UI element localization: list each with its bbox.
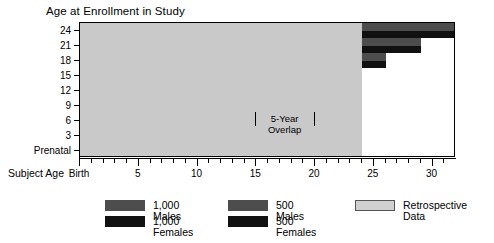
x-axis-minor-tick [161,159,162,163]
x-axis-major-tick [138,159,139,166]
x-axis-major-tick [197,159,198,166]
y-axis-tick-label: 15 [60,69,71,80]
x-axis-minor-tick [302,159,303,163]
chart-legend: 1,000 Males1,000 Females500 Males500 Fem… [0,196,494,243]
y-axis-tick-label: 12 [60,84,71,95]
y-axis-tick-label: Prenatal [34,144,71,155]
x-axis-major-tick [373,159,374,166]
x-axis-minor-tick [232,159,233,163]
x-axis-minor-tick [408,159,409,163]
x-axis-minor-tick [291,159,292,163]
y-axis-tick [74,150,79,151]
x-axis-minor-tick [126,159,127,163]
legend-label-five-hundred-females: 500 Females [276,216,316,238]
y-axis-tick [74,45,79,46]
x-axis-minor-tick [267,159,268,163]
x-axis-minor-tick [326,159,327,163]
x-axis-minor-tick [349,159,350,163]
legend-label-retrospective: Retrospective Data [403,200,467,222]
legend-label-thousand-females: 1,000 Females [153,216,193,238]
cohort-band-female [362,31,455,39]
overlap-annotation-line1: 5-Year [250,113,320,124]
x-axis-minor-tick [338,159,339,163]
y-axis-tick [74,105,79,106]
x-axis-tick-label: Birth [69,168,90,179]
x-axis-tick-label: 20 [308,168,319,179]
x-axis-minor-tick [91,159,92,163]
x-axis-minor-tick [385,159,386,163]
x-axis-minor-tick [185,159,186,163]
x-axis-minor-tick [114,159,115,163]
x-axis-minor-tick [173,159,174,163]
y-axis-tick-label: 21 [60,39,71,50]
y-axis-tick [74,120,79,121]
x-axis-minor-tick [208,159,209,163]
x-axis-minor-tick [103,159,104,163]
x-axis-major-tick [79,159,80,166]
legend-swatch-thousand-females [105,216,145,227]
x-axis-minor-tick [396,159,397,163]
x-axis-major-tick [255,159,256,166]
x-axis-major-tick [432,159,433,166]
plot-area [79,22,455,157]
x-axis-tick-label: 10 [191,168,202,179]
x-axis-tick-label: 25 [367,168,378,179]
x-axis-minor-tick [150,159,151,163]
retrospective-region [80,23,362,157]
y-axis-tick-label: 24 [60,24,71,35]
x-axis-tick-label: 30 [426,168,437,179]
x-axis-minor-tick [443,159,444,163]
x-axis-minor-tick [420,159,421,163]
y-axis-tick-label: 3 [65,129,71,140]
x-axis-tick-label: 5 [135,168,141,179]
legend-swatch-five-hundred-males [228,200,268,211]
y-axis-line [79,22,80,158]
cohort-band-male [362,23,455,31]
x-axis-minor-tick [220,159,221,163]
legend-swatch-retrospective [355,200,395,211]
cohort-sequential-design-chart: Age at Enrollment in Study 2421181512963… [0,0,494,243]
y-axis-tick [74,90,79,91]
y-axis-tick-label: 6 [65,114,71,125]
legend-swatch-five-hundred-females [228,216,268,227]
overlap-annotation-text: 5-YearOverlap [250,113,320,135]
x-axis-minor-tick [279,159,280,163]
x-axis-tick-label: 15 [250,168,261,179]
x-axis-major-tick [314,159,315,166]
x-axis-minor-tick [361,159,362,163]
y-axis-tick-label: 18 [60,54,71,65]
y-axis-tick [74,60,79,61]
y-axis-tick-label: 9 [65,99,71,110]
overlap-annotation-line2: Overlap [250,124,320,135]
x-axis-minor-tick [244,159,245,163]
y-axis-tick [74,135,79,136]
legend-swatch-thousand-males [105,200,145,211]
x-axis-title: Subject Age [8,168,64,179]
y-axis-tick [74,30,79,31]
y-axis-tick [74,75,79,76]
